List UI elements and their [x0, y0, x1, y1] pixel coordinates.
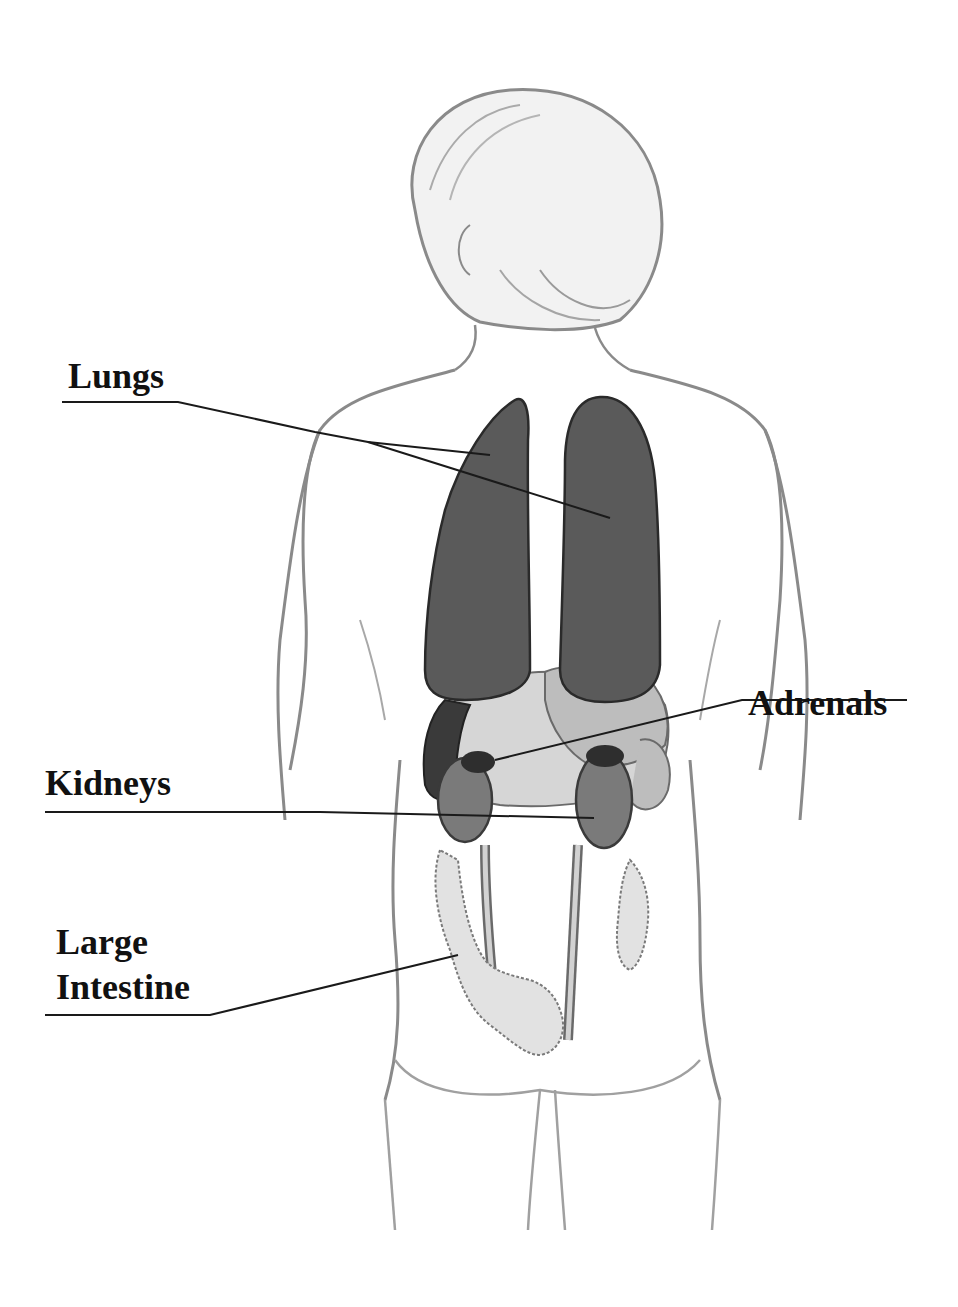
- label-lungs: Lungs: [68, 358, 164, 396]
- label-large-intestine-line2: Intestine: [56, 969, 190, 1007]
- label-large-intestine-line1: Large: [56, 924, 148, 962]
- kidneys-leader: [45, 812, 594, 818]
- label-adrenals: Adrenals: [748, 685, 887, 723]
- body-illustration: [0, 0, 958, 1307]
- anatomy-diagram: Lungs Adrenals Kidneys Large Intestine: [0, 0, 958, 1307]
- label-kidneys: Kidneys: [45, 765, 171, 803]
- head: [412, 90, 662, 370]
- large-intestine: [435, 850, 648, 1055]
